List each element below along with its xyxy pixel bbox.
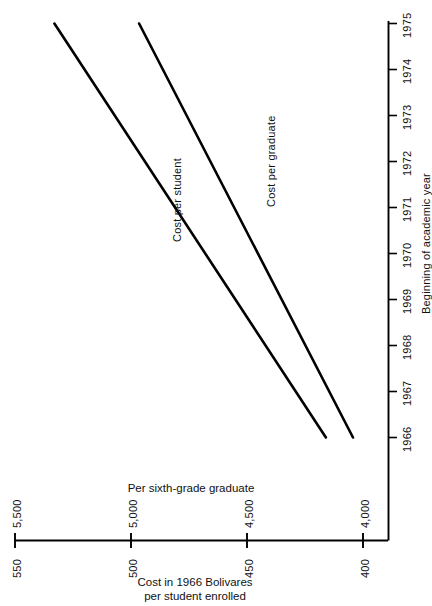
time-tick-label-1973: 1973 (402, 105, 413, 130)
time-tick-label-1968: 1968 (402, 335, 413, 360)
time-axis (388, 21, 397, 541)
time-tick-label-1972: 1972 (402, 151, 413, 176)
value-axis-title-line1: Cost in 1966 Bolivares (0, 575, 390, 589)
time-tick-label-1971: 1971 (402, 197, 413, 222)
time-tick-label-1970: 1970 (402, 243, 413, 268)
secondary-tick-label-5500: 5,500 (12, 499, 23, 528)
secondary-tick-label-4000: 4,000 (360, 499, 371, 528)
time-axis-title: Beginning of academic year (421, 173, 432, 314)
series-label-cost-per-student: Cost per student (172, 158, 183, 242)
secondary-tick-label-4500: 4,500 (244, 499, 255, 528)
time-tick-label-1975: 1975 (402, 13, 413, 38)
time-tick-label-1966: 1966 (402, 427, 413, 452)
secondary-tick-label-5000: 5,000 (128, 499, 139, 528)
time-tick-label-1969: 1969 (402, 289, 413, 314)
value-axis-title-line2: per student enrolled (0, 589, 390, 603)
value-axis (15, 533, 388, 548)
series-line-cost-per-student (54, 24, 326, 438)
secondary-axis-title: Per sixth-grade graduate (0, 481, 382, 495)
time-tick-label-1967: 1967 (402, 381, 413, 406)
series-label-cost-per-graduate: Cost per graduate (266, 116, 277, 207)
time-tick-label-1974: 1974 (402, 59, 413, 84)
